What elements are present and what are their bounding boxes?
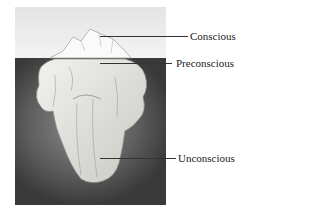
conscious-label: Conscious xyxy=(190,30,236,42)
preconscious-label: Preconscious xyxy=(176,57,234,69)
unconscious-leader-line xyxy=(100,158,176,159)
preconscious-leader-line xyxy=(100,63,172,64)
conscious-leader-line xyxy=(100,36,188,37)
unconscious-label: Unconscious xyxy=(178,152,235,164)
